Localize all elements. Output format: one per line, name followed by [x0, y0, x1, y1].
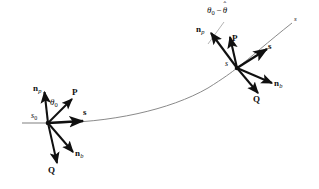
- vector-arrow-s: [48, 121, 83, 123]
- label-origin-s: s: [225, 60, 228, 68]
- label-Q: Q: [253, 95, 260, 104]
- label-n-p: np: [196, 25, 205, 36]
- vector-diagram-figure: np P s θ0 s0 nb Q np P s s nb Q θ0−ˆθ: [0, 0, 319, 189]
- label-n-p: np: [33, 84, 42, 95]
- diagram-canvas: [0, 0, 319, 189]
- label-s-vector: s: [83, 108, 87, 117]
- label-P: P: [72, 88, 78, 97]
- label-s-vector: s: [268, 42, 272, 51]
- label-theta-0-minus-theta-hat: θ0−ˆθ: [207, 6, 227, 17]
- frame-current-vectors: [211, 33, 272, 93]
- label-n-b: nb: [274, 79, 283, 90]
- label-n-b: nb: [75, 149, 84, 160]
- vector-arrow-s: [237, 49, 267, 68]
- vector-arrow-n-p: [45, 92, 49, 123]
- label-theta-0: θ0: [50, 98, 58, 109]
- label-Q: Q: [48, 166, 55, 175]
- label-curve-end-s: s: [294, 16, 297, 23]
- label-origin-s-0: s0: [31, 112, 37, 121]
- label-P: P: [232, 34, 238, 43]
